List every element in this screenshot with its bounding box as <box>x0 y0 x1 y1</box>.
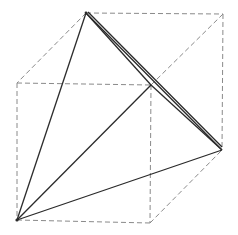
tetrahedron-edges <box>17 12 222 220</box>
vertex-dot <box>85 12 88 15</box>
cube-tetrahedron-diagram <box>0 0 238 235</box>
vertex-dot <box>15 218 18 221</box>
